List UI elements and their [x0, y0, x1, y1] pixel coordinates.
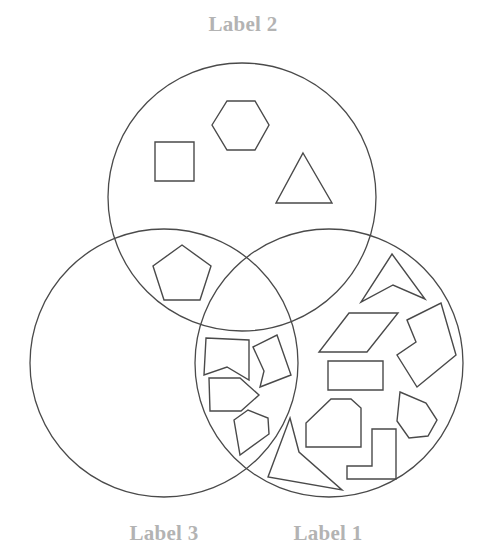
- rectangle-icon: [328, 361, 383, 390]
- arrow-pentagon-icon: [209, 378, 259, 411]
- pentagon-icon: [153, 245, 211, 300]
- venn-diagram: [0, 0, 485, 558]
- l-shape-icon: [347, 429, 396, 479]
- square-icon: [155, 142, 194, 181]
- triangle-icon: [276, 153, 332, 203]
- set-label-2: Label 2: [208, 12, 277, 37]
- concave-triangle-icon: [268, 418, 342, 490]
- irregular-hexagon-icon: [397, 392, 437, 438]
- irregular-pentagon-icon: [234, 410, 269, 455]
- shapes-group: [153, 101, 456, 490]
- parallelogram-icon: [319, 313, 398, 352]
- notched-quadrilateral-icon: [253, 335, 291, 387]
- hexagon-icon: [212, 101, 269, 150]
- notched-rectangle-icon: [204, 338, 249, 380]
- notched-square-icon: [397, 303, 456, 387]
- set-label-1: Label 1: [293, 521, 362, 546]
- circle-label-2: [108, 63, 376, 331]
- circles: [30, 63, 463, 497]
- circle-label-3: [30, 229, 298, 497]
- octagon-cut-icon: [306, 399, 361, 447]
- circle-label-1: [195, 229, 463, 497]
- set-label-3: Label 3: [129, 521, 198, 546]
